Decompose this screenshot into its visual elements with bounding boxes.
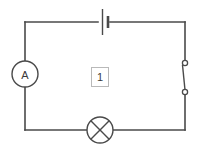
figure-number-box: 1 [91,67,109,87]
switch-terminal-top [182,60,187,65]
battery-icon [103,9,109,35]
circuit-diagram: A 1 [0,0,200,148]
switch-terminal-bottom [182,89,187,94]
switch-open-icon[interactable] [182,60,187,94]
switch-blade[interactable] [183,65,186,90]
ammeter-icon: A [12,61,38,87]
ammeter-label: A [21,69,29,81]
lamp-icon [87,117,113,143]
